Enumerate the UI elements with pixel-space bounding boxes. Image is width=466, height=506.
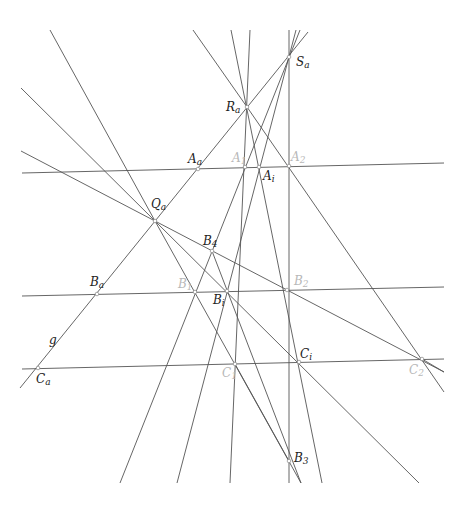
- point-ba-label: Ba: [89, 275, 104, 290]
- point-ai: [257, 165, 261, 169]
- point-ca: [36, 366, 40, 370]
- points-layer: [36, 55, 424, 463]
- line-b: [22, 287, 444, 296]
- point-ra-label: Ra: [225, 100, 240, 115]
- point-qa: [153, 219, 157, 223]
- point-qa-label: Qa: [151, 197, 166, 212]
- point-b3: [287, 459, 291, 463]
- point-a2: [287, 164, 291, 168]
- point-a2-label: A2: [290, 150, 306, 165]
- point-ci-label: Ci: [300, 347, 312, 362]
- point-aa-label: Aa: [187, 152, 202, 167]
- line-ra-a2-c2: [247, 107, 444, 392]
- line-qa-bi-ci: [155, 221, 419, 483]
- point-b1-label: B1: [177, 277, 193, 292]
- line-c1-b3: [235, 364, 289, 461]
- point-bi: [225, 289, 229, 293]
- line-qa-1: [50, 30, 155, 221]
- geometry-diagram: SaRaAaA1AiA2QaB4BaB1BiB2CaC1CiC2B3g: [0, 0, 466, 506]
- point-ai-label: Ai: [262, 169, 275, 184]
- point-c2: [420, 357, 424, 361]
- point-sa-label: Sa: [296, 55, 310, 70]
- point-bi-label: Bi: [212, 293, 225, 308]
- line-qa-2: [21, 88, 155, 221]
- label-g: g: [49, 333, 57, 347]
- point-b4: [210, 249, 214, 253]
- line-qa-3: [21, 151, 155, 221]
- point-b3-label: B3: [293, 451, 309, 466]
- lines-layer: [20, 30, 444, 483]
- point-b2: [285, 288, 289, 292]
- line-ra-ai-b3: [231, 30, 322, 483]
- point-ra: [245, 105, 249, 109]
- line-a1-c1: [230, 30, 250, 483]
- point-b1: [193, 290, 197, 294]
- point-aa: [196, 167, 200, 171]
- point-sa: [287, 55, 291, 59]
- point-ba: [95, 292, 99, 296]
- point-c2-label: C2: [409, 363, 424, 378]
- point-ca-label: Ca: [36, 372, 51, 387]
- line-sa-b1: [120, 30, 300, 483]
- point-c1: [233, 362, 237, 366]
- point-a1-label: A1: [231, 151, 246, 166]
- point-b2-label: B2: [293, 274, 309, 289]
- line-sa-bi: [177, 30, 296, 483]
- point-b4-label: B4: [202, 234, 218, 249]
